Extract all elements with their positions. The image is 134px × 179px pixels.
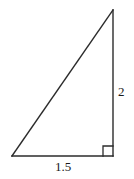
figure-background bbox=[0, 0, 134, 179]
side-label-horizontal-leg: 1.5 bbox=[55, 160, 71, 173]
triangle-svg bbox=[0, 0, 134, 179]
side-label-vertical-leg: 2 bbox=[118, 85, 125, 98]
triangle-figure: 2 1.5 bbox=[0, 0, 134, 179]
